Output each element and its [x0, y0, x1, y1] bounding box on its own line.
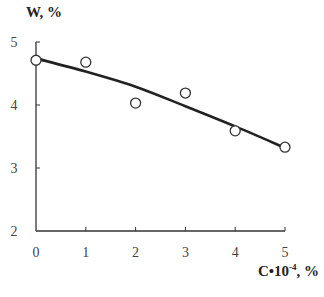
x-tick-label: 4 — [232, 245, 239, 260]
x-tick-label: 2 — [132, 245, 139, 260]
x-tick-label: 0 — [33, 245, 40, 260]
y-tick-label: 5 — [11, 35, 18, 50]
data-points — [31, 55, 290, 152]
y-tick-label: 3 — [11, 161, 18, 176]
fitted-curve — [36, 58, 285, 147]
x-tick-label: 1 — [82, 245, 89, 260]
plot-area: 2345012345 — [0, 0, 324, 297]
y-tick-label: 2 — [11, 224, 18, 239]
data-point-marker — [31, 55, 41, 65]
cut-off-caption — [0, 289, 324, 297]
data-point-marker — [180, 88, 190, 98]
x-tick-label: 5 — [282, 245, 289, 260]
x-tick-label: 3 — [182, 245, 189, 260]
y-tick-label: 4 — [11, 98, 18, 113]
fitted-curve-path — [36, 58, 285, 147]
data-point-marker — [81, 57, 91, 67]
data-point-marker — [280, 142, 290, 152]
data-point-marker — [131, 98, 141, 108]
data-point-marker — [230, 126, 240, 136]
axes: 2345012345 — [11, 35, 289, 260]
